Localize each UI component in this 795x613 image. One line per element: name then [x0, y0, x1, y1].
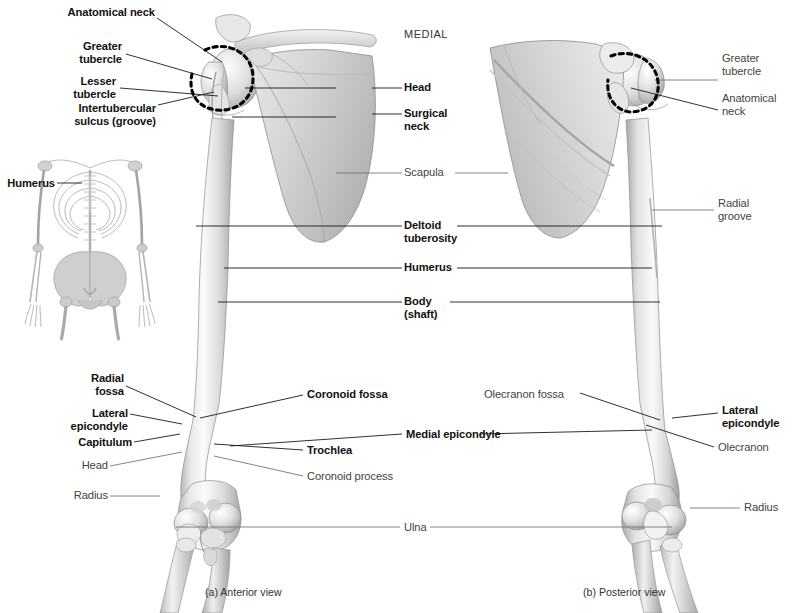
label-anatomical-neck-p: Anatomical neck: [722, 92, 776, 118]
leader-coronoid-process: [214, 456, 303, 476]
caption-anterior-view: (a) Anterior view: [205, 586, 282, 598]
anatomy-illustration: [0, 0, 795, 613]
label-greater-tubercle-p: Greater tubercle: [722, 52, 761, 78]
label-capitulum: Capitulum: [0, 436, 132, 449]
anterior-humerus: [160, 48, 259, 613]
label-coronoid-fossa: Coronoid fossa: [307, 388, 388, 401]
leader-anatomical-neck: [157, 18, 222, 62]
label-lesser-tubercle: Lesser tubercle: [0, 75, 116, 101]
leader-medial-epicondyle-right: [480, 430, 652, 434]
label-body-shaft: Body (shaft): [404, 295, 437, 321]
posterior-humerus: [612, 54, 698, 613]
leader-greater-tubercle: [126, 54, 212, 79]
label-trochlea: Trochlea: [307, 444, 352, 457]
caption-posterior-view: (b) Posterior view: [583, 586, 665, 598]
orientation-medial: MEDIAL: [404, 28, 448, 40]
label-radius: Radius: [0, 489, 108, 502]
label-medial-epicondyle: Medial epicondyle: [406, 428, 501, 441]
label-head: Head: [404, 81, 431, 94]
posterior-scapula: [490, 41, 634, 238]
label-lateral-epicondyle-p: Lateral epicondyle: [722, 404, 779, 430]
label-surgical-neck: Surgical neck: [404, 107, 447, 133]
label-coronoid-process: Coronoid process: [307, 470, 393, 483]
label-humerus: Humerus: [404, 261, 452, 274]
leader-lateral-epicondyle: [130, 414, 182, 424]
label-lateral-epicondyle: Lateral epicondyle: [0, 407, 128, 433]
label-radius-p: Radius: [744, 501, 778, 514]
label-ulna: Ulna: [404, 521, 427, 534]
leader-capitulum: [134, 434, 180, 442]
leader-radial-fossa: [126, 386, 196, 417]
label-olecranon: Olecranon: [718, 441, 769, 454]
label-radial-groove: Radial groove: [718, 197, 752, 223]
label-anatomical-neck: Anatomical neck: [0, 6, 155, 19]
leader-lateral-epicondyle-p: [672, 413, 718, 418]
label-greater-tubercle: Greater tubercle: [0, 40, 122, 66]
label-deltoid-tuberosity: Deltoid tuberosity: [404, 219, 457, 245]
label-head-radius: Head: [0, 459, 108, 472]
figure-canvas: MEDIAL Anatomical neck Greater tubercle …: [0, 0, 795, 613]
leader-trochlea: [214, 444, 303, 450]
anterior-scapula: [216, 15, 377, 243]
label-inset-humerus: Humerus: [0, 177, 55, 190]
label-olecranon-fossa: Olecranon fossa: [484, 388, 564, 401]
label-radial-fossa: Radial fossa: [0, 372, 124, 398]
leader-head-radius: [110, 452, 182, 466]
label-scapula: Scapula: [404, 166, 444, 179]
label-intertubercular-sulcus: Intertubercular sulcus (groove): [0, 102, 156, 128]
